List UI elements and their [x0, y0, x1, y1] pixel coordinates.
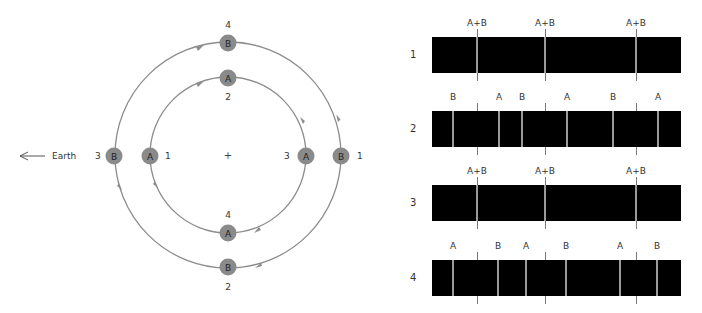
spectral-line: [657, 111, 659, 147]
spectral-line: [656, 260, 658, 296]
spectral-line-label: B: [450, 92, 456, 102]
svg-text:2: 2: [225, 282, 231, 292]
reference-tick: [477, 296, 478, 304]
spectral-line-label: A: [450, 241, 456, 251]
spectral-line: [498, 111, 500, 147]
reference-tick: [477, 221, 478, 229]
svg-text:A: A: [225, 74, 232, 84]
svg-text:A: A: [303, 152, 310, 162]
earth-arrow-icon: [20, 152, 45, 160]
spectral-line: [521, 111, 523, 147]
spectral-line-label: B: [654, 241, 660, 251]
spectral-line-label: A+B: [467, 18, 487, 28]
spectral-line: [635, 185, 637, 221]
svg-text:A: A: [225, 229, 232, 239]
spectral-line: [635, 37, 637, 73]
reference-tick: [636, 147, 637, 155]
svg-text:B: B: [225, 39, 231, 49]
svg-text:3: 3: [95, 151, 101, 161]
center-of-mass-marker: +: [224, 150, 232, 161]
spectral-line-label: B: [519, 92, 525, 102]
reference-tick: [477, 177, 478, 185]
star-a-phase-4: A4: [220, 210, 237, 242]
spectrum-label: 1: [410, 49, 416, 60]
spectral-line-label: B: [495, 241, 501, 251]
spectral-line-label: A: [655, 92, 661, 102]
reference-tick: [636, 221, 637, 229]
svg-text:3: 3: [284, 151, 290, 161]
spectral-line-label: B: [563, 241, 569, 251]
star-b-phase-3: B3: [95, 148, 123, 165]
spectral-line-label: A: [617, 241, 623, 251]
reference-tick: [636, 252, 637, 260]
spectral-line: [544, 185, 546, 221]
svg-text:B: B: [111, 152, 117, 162]
reference-tick: [545, 29, 546, 37]
svg-text:2: 2: [225, 92, 231, 102]
reference-tick: [545, 103, 546, 111]
reference-tick: [545, 252, 546, 260]
spectral-line-label: A+B: [626, 18, 646, 28]
star-a-phase-1: A1: [142, 148, 171, 165]
reference-tick: [477, 103, 478, 111]
reference-tick: [636, 296, 637, 304]
spectral-line-label: B: [610, 92, 616, 102]
star-b-phase-2: B2: [220, 259, 237, 293]
spectral-line-label: A: [523, 241, 529, 251]
spectral-line: [476, 185, 478, 221]
spectrum-2: [432, 111, 681, 147]
reference-tick: [636, 73, 637, 81]
spectral-line: [544, 37, 546, 73]
spectral-line: [497, 260, 499, 296]
star-a-phase-3: A3: [284, 148, 315, 165]
reference-tick: [636, 29, 637, 37]
spectral-line: [452, 260, 454, 296]
reference-tick: [477, 29, 478, 37]
svg-text:A: A: [147, 152, 154, 162]
reference-tick: [477, 147, 478, 155]
reference-tick: [545, 177, 546, 185]
star-b-phase-4: B4: [220, 20, 237, 52]
svg-text:B: B: [225, 263, 231, 273]
reference-tick: [477, 73, 478, 81]
svg-text:4: 4: [225, 20, 231, 30]
spectrum-1: [432, 37, 681, 73]
reference-tick: [545, 296, 546, 304]
spectrum-label: 4: [410, 272, 416, 283]
spectral-line: [565, 260, 567, 296]
reference-tick: [477, 252, 478, 260]
spectral-line: [566, 111, 568, 147]
spectral-line-label: A+B: [535, 18, 555, 28]
spectral-line: [476, 37, 478, 73]
earth-label: Earth: [52, 151, 76, 161]
reference-tick: [545, 73, 546, 81]
binary-orbit-diagram: + Earth B1 B2 B3 B4 A1 A2 A3 A4: [0, 0, 380, 313]
star-a-phase-2: A2: [220, 70, 237, 103]
spectral-line: [612, 111, 614, 147]
spectrum-label: 3: [410, 197, 416, 208]
svg-text:B: B: [338, 152, 344, 162]
spectral-line-label: A: [496, 92, 502, 102]
spectral-line: [619, 260, 621, 296]
spectral-line-label: A+B: [467, 166, 487, 176]
spectrum-4: [432, 260, 681, 296]
spectral-line: [452, 111, 454, 147]
spectrum-3: [432, 185, 681, 221]
spectral-line: [525, 260, 527, 296]
spectrum-label: 2: [410, 123, 416, 134]
spectral-line-label: A+B: [626, 166, 646, 176]
star-b-phase-1: B1: [333, 148, 363, 165]
reference-tick: [636, 177, 637, 185]
svg-text:1: 1: [357, 151, 363, 161]
reference-tick: [545, 147, 546, 155]
spectral-line-label: A+B: [535, 166, 555, 176]
svg-text:4: 4: [225, 210, 231, 220]
svg-text:1: 1: [165, 151, 171, 161]
reference-tick: [636, 103, 637, 111]
spectral-line-label: A: [564, 92, 570, 102]
reference-tick: [545, 221, 546, 229]
